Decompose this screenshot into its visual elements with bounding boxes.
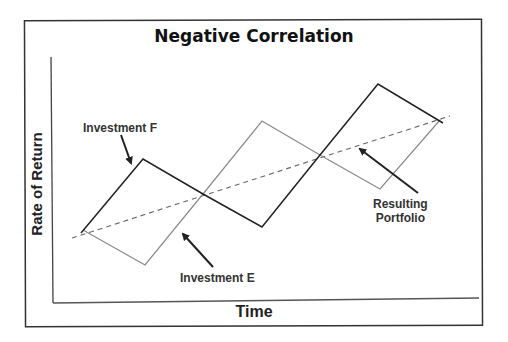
chart-title: Negative Correlation — [0, 26, 508, 46]
chart-canvas — [0, 0, 508, 342]
arrow-investment-f — [121, 135, 131, 163]
series-investment-e — [83, 120, 440, 265]
y-axis — [51, 57, 53, 303]
arrow-investment-e — [183, 234, 213, 267]
annotation-investment-f: Investment F — [83, 121, 157, 135]
x-axis-label: Time — [0, 303, 508, 321]
y-axis-label: Rate of Return — [28, 132, 45, 235]
annotation-resulting-portfolio: Resulting Portfolio — [373, 197, 428, 225]
annotation-portfolio-line2: Portfolio — [373, 211, 428, 225]
annotation-portfolio-line1: Resulting — [373, 197, 428, 211]
annotation-investment-e: Investment E — [180, 271, 255, 285]
